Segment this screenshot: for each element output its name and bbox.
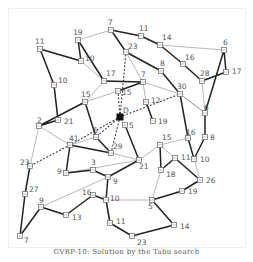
node-label: 6 [223,38,228,47]
node-label: 10 [200,155,210,164]
node-label: 7 [141,70,146,79]
dotted-edge [118,91,120,117]
node-label: 17 [232,67,242,76]
node-label: 13 [72,213,82,222]
node-label: 15 [162,133,172,142]
node-label: 5 [148,202,153,211]
thin-edge [180,94,205,113]
dotted-edge [30,145,70,166]
node-label: 16 [186,128,196,137]
node-label: 5 [129,121,134,130]
node-label: 19 [73,28,83,37]
node-label: 21 [139,162,149,171]
node-label: 7 [108,18,113,27]
node-label: 8 [160,59,165,68]
node-label: 12 [151,96,161,105]
dotted-edge [96,117,120,137]
node-label: 5 [93,126,98,135]
node-label: 19 [188,187,198,196]
thin-edge [160,45,224,50]
figure-caption: GVRP-10: Solution by the Tabu search [0,248,253,256]
node-label: 3 [91,158,96,167]
vehicle-routing-graph: 7111461719111023168281771015301512651921… [0,0,253,262]
node-label: 15 [122,88,132,97]
thin-edge [143,82,146,102]
node-label: 8 [210,133,215,142]
thin-edge [111,153,139,160]
node-label: 23 [128,42,138,51]
node-label: 11 [181,153,191,162]
node-label: 23 [20,158,30,167]
thin-edge [39,126,70,145]
node-label: 18 [166,170,176,179]
depot-label: D [123,106,129,115]
node-label: 10 [85,54,95,63]
node-label: 30 [177,82,187,91]
node-label: 11 [35,37,45,46]
node-label: 14 [180,222,190,231]
node-label: 21 [64,117,74,126]
node-label: 11 [139,24,149,33]
node-label: 16 [185,53,195,62]
node-label: 27 [29,185,39,194]
node-label: 10 [110,194,120,203]
node-label: 29 [113,142,123,151]
node-label: 6 [204,103,209,112]
node-label: 11 [116,217,126,226]
node-label: 9 [39,196,44,205]
node-label: 15 [81,90,91,99]
node-label: 28 [200,69,210,78]
node-label: 2 [37,116,42,125]
node-label: 16 [82,188,92,197]
node-label: 23 [137,238,147,247]
node-label: 17 [106,69,116,78]
node-label: 19 [158,117,168,126]
node-label: 9 [57,167,62,176]
node-label: 41 [69,134,79,143]
thin-edge [30,126,39,166]
node-label: 26 [206,176,216,185]
node-label: 10 [58,76,68,85]
node-label: 9 [113,177,118,186]
node-label: 14 [162,33,172,42]
node-label: 7 [24,236,29,245]
thin-edge [41,177,108,207]
